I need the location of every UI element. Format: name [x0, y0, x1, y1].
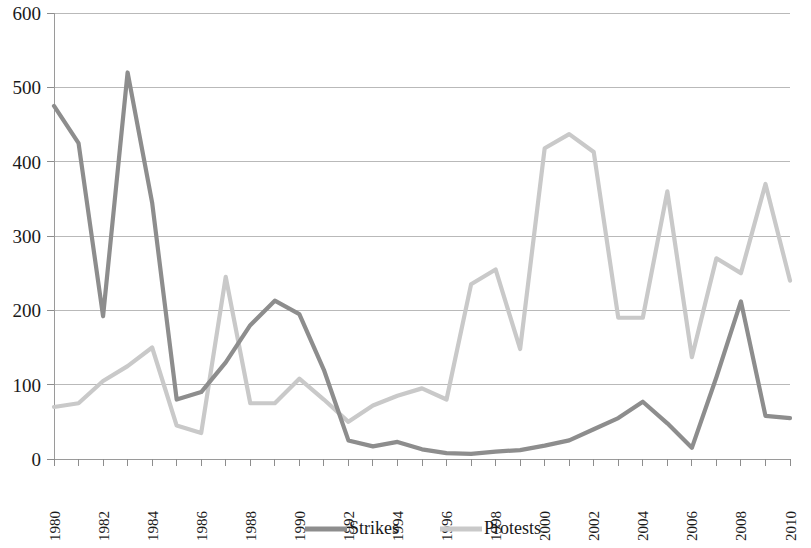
- x-tick-label-1988: 1988: [243, 511, 259, 541]
- y-tick-label-200: 200: [13, 300, 42, 321]
- x-tick-label-1986: 1986: [194, 511, 210, 542]
- y-tick-label-600: 600: [13, 3, 42, 24]
- y-tick-label-300: 300: [13, 226, 42, 247]
- x-tick-label-1996: 1996: [439, 511, 455, 542]
- x-tick-label-1984: 1984: [145, 511, 161, 542]
- y-tick-label-400: 400: [13, 152, 42, 173]
- y-axis-group: 0100200300400500600: [13, 3, 55, 470]
- x-tick-label-2008: 2008: [733, 511, 749, 541]
- chart-plot-area: 0100200300400500600 19801982198419861988…: [0, 0, 811, 548]
- x-tick-label-2002: 2002: [586, 511, 602, 541]
- series-line-protests: [54, 134, 790, 433]
- series-group: [54, 72, 790, 453]
- x-tick-label-2006: 2006: [684, 511, 700, 542]
- x-axis-group: 1980198219841986198819901992199419961998…: [47, 459, 799, 541]
- x-tick-label-1980: 1980: [47, 511, 63, 541]
- line-chart-strikes-protests: 0100200300400500600 19801982198419861988…: [0, 0, 811, 548]
- legend-label-protests: Protests: [484, 518, 541, 538]
- x-tick-label-2010: 2010: [783, 511, 799, 541]
- y-tick-label-500: 500: [13, 77, 42, 98]
- y-tick-label-0: 0: [32, 449, 42, 470]
- x-tick-label-2004: 2004: [635, 511, 651, 542]
- y-tick-label-100: 100: [13, 375, 42, 396]
- legend-label-strikes: Strikes: [349, 518, 399, 538]
- x-tick-label-1982: 1982: [96, 511, 112, 541]
- x-tick-label-1990: 1990: [292, 511, 308, 541]
